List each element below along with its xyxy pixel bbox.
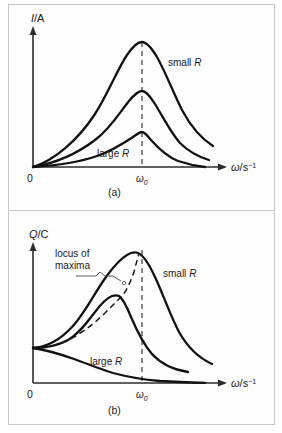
resonance-figure: I/A ω/s−1 0 ω0 small R large R (a) [0,0,282,433]
panel-b-annotation-line1: locus of [55,248,90,259]
panel-a-caption: (a) [108,186,121,198]
figure-root: I/A ω/s−1 0 ω0 small R large R (a) [0,0,282,433]
panel-b-origin-label: 0 [27,388,33,400]
panel-b-label-large-r: large R [90,356,122,367]
panel-a-origin-label: 0 [27,172,33,184]
panel-b-omega0-sub: 0 [144,395,148,402]
panel-a-label-large-r: large R [97,148,129,159]
panel-b-y-axis-label: Q/C [29,228,49,240]
panel-a-y-axis-label: I/A [31,12,45,24]
panel-b-omega0-var: ω [136,389,144,400]
panel-a-x-axis-exp: −1 [248,162,256,169]
panel-a-y-axis-unit: /A [34,12,45,24]
panel-b-x-axis-exp: −1 [248,378,256,385]
panel-b-y-axis-unit: /C [38,228,49,240]
panel-a-omega0-sub: 0 [144,179,148,186]
panel-a-label-small-r: small R [168,57,201,68]
panel-a-omega0-var: ω [136,173,144,184]
panel-b-annotation-line2: maxima [55,260,90,271]
panel-b-label-small-r: small R [163,268,196,279]
panel-b-caption: (b) [108,404,121,416]
